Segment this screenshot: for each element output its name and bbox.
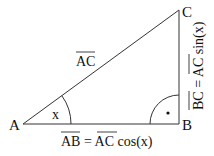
triangle-diagram: A B C x AC AB = AC cos(x) BC = AC sin(x): [0, 0, 214, 156]
vertex-b-label: B: [182, 117, 192, 133]
angle-x-arc: [62, 96, 71, 124]
opposite-rhs: AC: [191, 58, 206, 77]
opposite-func: sin(x): [191, 21, 207, 58]
vertex-c-label: C: [182, 4, 192, 20]
adjacent-eq: =: [80, 134, 94, 149]
adjacent-rhs: AC: [95, 134, 114, 149]
hypotenuse-label: AC: [76, 54, 95, 69]
adjacent-lhs: AB: [61, 134, 80, 149]
angle-x-label: x: [52, 107, 59, 122]
right-angle-arc: [150, 95, 179, 124]
adjacent-label: AB = AC cos(x): [61, 132, 153, 150]
svg-text:BC = AC sin(x): BC = AC sin(x): [191, 21, 207, 110]
right-angle-dot: [166, 111, 169, 114]
vertex-a-label: A: [9, 117, 20, 133]
adjacent-func: cos(x): [114, 134, 153, 150]
opposite-label: BC = AC sin(x): [189, 21, 207, 110]
svg-text:AB = AC cos(x): AB = AC cos(x): [61, 134, 153, 150]
opposite-eq: =: [191, 77, 206, 91]
opposite-lhs: BC: [191, 91, 206, 110]
